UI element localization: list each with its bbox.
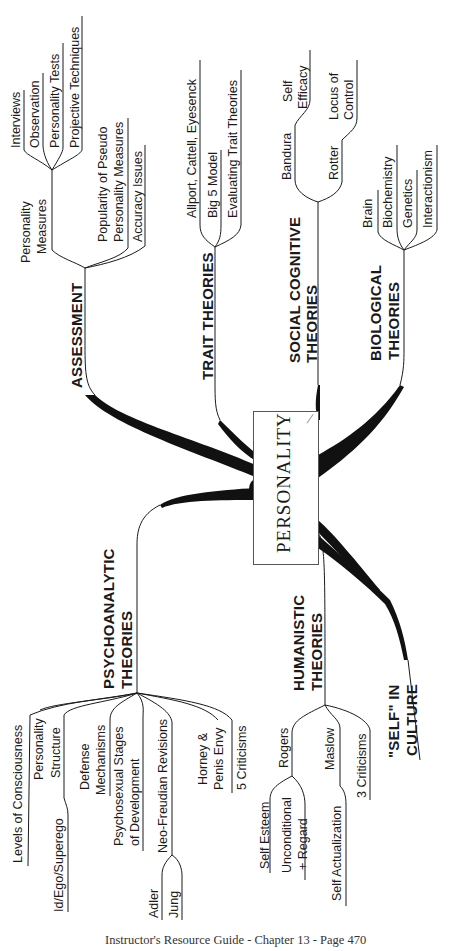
leaf-projective-techniques: Projective Techniques — [69, 27, 82, 148]
rotter-label: Rotter — [328, 146, 341, 180]
leaf-big5: Big 5 Model — [207, 152, 220, 218]
leaf-self-actualization: Self Actualization — [331, 806, 344, 901]
leaf-self-efficacy-2: Efficacy — [297, 65, 310, 109]
leaf-self-esteem: Self Esteem — [259, 802, 272, 869]
personality-measures-label-1: Personality — [20, 201, 33, 263]
leaf-unconditional-2: + Regard — [297, 818, 310, 870]
leaf-allport: Allport, Cattell, Eyesenck — [186, 79, 199, 218]
neo-freudian-label: Neo-Freudian Revisions — [157, 719, 170, 853]
leaf-evaluating-trait: Evaluating Trait Theories — [227, 80, 240, 218]
branch-self-culture-title-2: CULTURE — [404, 684, 420, 756]
leaf-adler: Adler — [148, 889, 161, 918]
horney-1: Horney & — [197, 733, 210, 785]
branch-psychoanalytic-title-1: PSYCHOANALYTIC — [101, 548, 117, 689]
personality-structure-2: Structure — [50, 727, 63, 778]
leaf-3-criticisms: 3 Criticisms — [356, 733, 369, 798]
leaf-interviews: Interviews — [10, 92, 23, 148]
leaf-popularity-pseudo-2: Personality Measures — [113, 122, 126, 242]
leaf-interactionism: Interactionism — [422, 150, 435, 228]
leaf-levels-consciousness: Levels of Consciousness — [12, 725, 25, 863]
leaf-accuracy-issues: Accuracy Issues — [132, 151, 145, 242]
bandura-label: Bandura — [281, 133, 294, 180]
leaf-observation: Observation — [29, 81, 42, 148]
rogers-label: Rogers — [278, 728, 291, 768]
personality-measures-label-2: Measures — [36, 199, 49, 254]
leaf-genetics: Genetics — [402, 179, 415, 228]
center-topic-label: PERSONALITY — [274, 412, 294, 553]
psychosexual-stages-1: Psychosexual Stages — [113, 726, 126, 846]
leaf-5-criticisms: 5 Criticisms — [236, 725, 249, 790]
leaf-self-efficacy-1: Self — [282, 80, 295, 102]
leaf-locus-control-1: Locus of — [328, 73, 341, 120]
branch-assessment-title: ASSESSMENT — [69, 283, 85, 388]
branch-biological-title-2: THEORIES — [386, 282, 402, 360]
horney-2: Penis Envy — [213, 727, 226, 790]
leaf-biochemistry: Biochemistry — [382, 156, 395, 228]
branch-self-culture-title-1: "SELF" IN — [386, 684, 402, 758]
branch-biological-title-1: BIOLOGICAL — [368, 265, 384, 361]
leaf-jung: Jung — [168, 891, 181, 918]
leaf-personality-tests: Personality Tests — [49, 54, 62, 148]
page-footer: Instructor's Resource Guide - Chapter 13… — [105, 933, 366, 948]
leaf-popularity-pseudo-1: Popularity of Pseudo — [97, 127, 110, 242]
psychosexual-stages-2: of Development — [129, 758, 142, 846]
branch-psychoanalytic-title-2: THEORIES — [119, 611, 135, 689]
leaf-id-ego-superego: Id/Ego/Superego — [53, 818, 66, 912]
branch-social-cognitive-title-1: SOCIAL COGNITIVE — [287, 217, 303, 363]
branch-trait-title: TRAIT THEORIES — [200, 252, 216, 380]
personality-structure-1: Personality — [33, 718, 46, 780]
maslow-label: Maslow — [324, 728, 337, 770]
defense-mechanisms-1: Defense — [79, 743, 92, 790]
leaf-brain: Brain — [362, 199, 375, 228]
defense-mechanisms-2: Mechanisms — [95, 725, 108, 795]
leaf-locus-control-2: Control — [343, 80, 356, 120]
branch-humanistic-title-2: THEORIES — [309, 613, 325, 691]
leaf-unconditional-1: Unconditional — [281, 797, 294, 873]
branch-humanistic-title-1: HUMANISTIC — [291, 595, 307, 691]
branch-social-cognitive-title-2: THEORIES — [304, 285, 320, 363]
